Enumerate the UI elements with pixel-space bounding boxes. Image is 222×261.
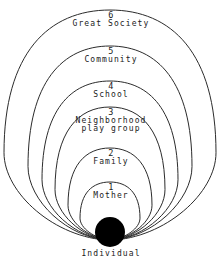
arcs-group — [4, 10, 216, 240]
concentric-arcs-diagram: 1 Mother 2 Family 3 Neighborhood play gr… — [0, 0, 222, 261]
ring-arc-4 — [42, 81, 178, 240]
arc-canvas — [0, 0, 222, 261]
ring-arc-6 — [4, 10, 216, 240]
ring-arc-5 — [28, 46, 192, 240]
individual-focus-dot — [95, 217, 125, 247]
